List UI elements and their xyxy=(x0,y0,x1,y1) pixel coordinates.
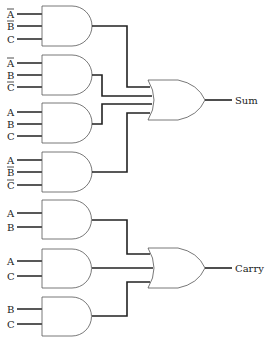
input-label-b: B xyxy=(7,119,14,130)
output-label-carry: Carry xyxy=(235,263,264,274)
input-label-c: C xyxy=(7,131,15,142)
output-label-sum: Sum xyxy=(235,95,258,106)
input-label-a: A xyxy=(6,256,15,267)
logic-diagram: A B C A B C A B C A B C xyxy=(0,0,267,343)
and-gate-2: A B C xyxy=(6,55,92,95)
carry-wires xyxy=(92,220,153,316)
input-label-c-not: C xyxy=(7,180,15,191)
input-label-a: A xyxy=(6,155,15,166)
input-label-c: C xyxy=(7,319,15,330)
input-label-b: B xyxy=(7,304,14,315)
input-label-b-not: B xyxy=(7,167,14,178)
and-gate-6: A C xyxy=(6,249,91,288)
input-label-c: C xyxy=(7,34,15,45)
and-gate-5: A B xyxy=(6,200,91,239)
input-label-b-not: B xyxy=(7,21,14,32)
input-label-a-not: A xyxy=(6,58,15,69)
input-label-a: A xyxy=(6,107,15,118)
sum-wires xyxy=(92,26,152,172)
or-gate-sum: Sum xyxy=(148,80,258,120)
input-label-b: B xyxy=(7,70,14,81)
input-label-c-not: C xyxy=(7,82,15,93)
input-label-c: C xyxy=(7,271,15,282)
and-gate-1: A B C xyxy=(6,6,92,46)
or-gate-carry: Carry xyxy=(148,248,264,288)
input-label-b: B xyxy=(7,222,14,233)
and-gate-3: A B C xyxy=(6,103,92,143)
and-gate-7: B C xyxy=(7,297,91,336)
and-gate-4: A B C xyxy=(6,152,92,192)
input-label-a-not: A xyxy=(6,9,15,20)
input-label-a: A xyxy=(6,208,15,219)
